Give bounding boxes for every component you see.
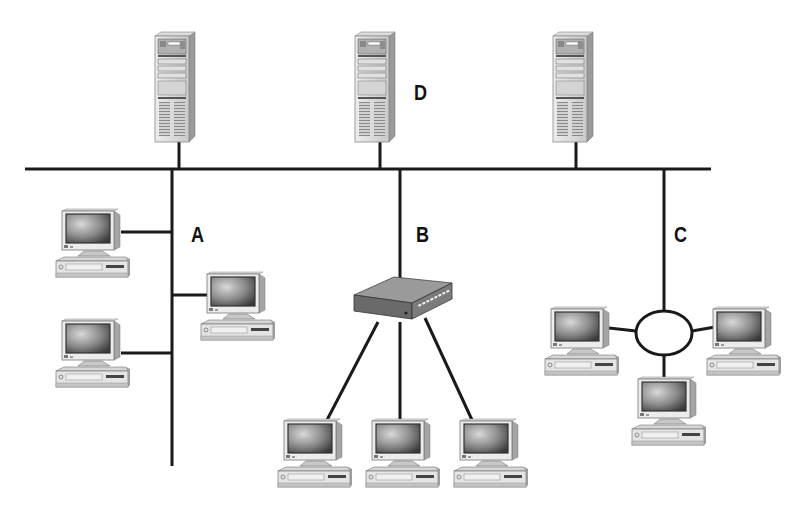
computer-a2-icon bbox=[201, 272, 275, 340]
label-a: A bbox=[191, 224, 204, 246]
server-1-icon bbox=[155, 32, 195, 142]
label-d: D bbox=[414, 82, 427, 104]
label-b: B bbox=[416, 224, 429, 246]
computer-c2-icon bbox=[707, 307, 781, 375]
server-3-icon bbox=[553, 32, 593, 142]
segment-c-link-right bbox=[692, 327, 715, 331]
computer-c3-icon bbox=[632, 377, 706, 445]
hub-icon bbox=[354, 277, 452, 319]
segment-b-devices bbox=[278, 277, 528, 487]
computer-c1-icon bbox=[545, 307, 619, 375]
segment-b-link-3 bbox=[425, 318, 472, 420]
network-diagram bbox=[0, 0, 805, 515]
segment-a-computers bbox=[56, 209, 275, 387]
computer-a3-icon bbox=[56, 319, 130, 387]
segment-c-link-left bbox=[609, 328, 636, 331]
server-2-icon bbox=[355, 32, 395, 142]
label-c: C bbox=[674, 224, 687, 246]
computer-b2-icon bbox=[366, 419, 440, 487]
computer-b3-icon bbox=[454, 419, 528, 487]
computer-a1-icon bbox=[56, 209, 130, 277]
segment-c-ring bbox=[636, 311, 692, 355]
servers bbox=[155, 32, 593, 142]
computer-b1-icon bbox=[278, 419, 352, 487]
segment-b-link-1 bbox=[327, 322, 378, 420]
